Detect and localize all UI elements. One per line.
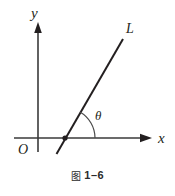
- origin-label: O: [18, 142, 28, 157]
- angle-label-theta: θ: [95, 108, 102, 123]
- figure-container: y x O L θ 图1–6: [0, 0, 175, 196]
- y-axis-arrowhead-icon: [34, 22, 42, 33]
- line-label-L: L: [125, 21, 134, 36]
- angle-arc: [80, 112, 95, 138]
- caption-cjk-glyph: 图: [71, 168, 82, 183]
- x-axis: [14, 134, 152, 142]
- geometry-diagram: y x O L θ: [0, 0, 175, 170]
- y-axis-label: y: [29, 5, 38, 21]
- x-axis-arrowhead-icon: [140, 134, 152, 142]
- figure-caption: 图1–6: [0, 168, 175, 183]
- caption-number: 1–6: [84, 169, 104, 181]
- y-axis: [34, 22, 42, 152]
- intersection-point: [62, 135, 67, 140]
- x-axis-label: x: [157, 130, 165, 146]
